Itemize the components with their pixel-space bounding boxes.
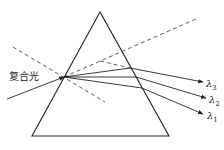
wavelength-label-1: λ1: [207, 111, 218, 124]
wavelength-label-2: λ2: [209, 95, 220, 108]
internal-ray-1: [64, 77, 142, 88]
exit-ray-3: [130, 68, 203, 82]
exit-ray-1: [142, 88, 203, 114]
exit-normal-line: [100, 61, 130, 68]
wavelength-label-3: λ3: [206, 79, 217, 92]
input-light-label: 复合光: [9, 72, 39, 82]
prism: [32, 12, 169, 136]
